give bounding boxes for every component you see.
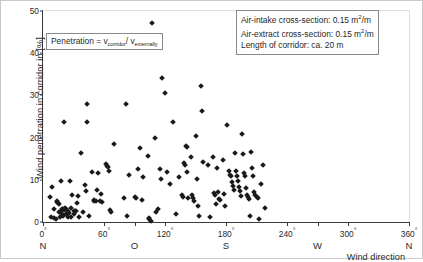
y-tick-label: 30 bbox=[30, 90, 43, 100]
data-point bbox=[249, 149, 255, 155]
data-point bbox=[247, 196, 253, 202]
x-tick-mark bbox=[409, 222, 410, 226]
data-point bbox=[210, 154, 216, 160]
data-point bbox=[95, 170, 101, 176]
data-point bbox=[99, 199, 105, 205]
data-point bbox=[258, 182, 264, 188]
x-axis-label: Wind direction bbox=[347, 252, 405, 262]
data-point bbox=[185, 169, 191, 175]
x-tick-label: 360° bbox=[401, 227, 417, 239]
data-point bbox=[205, 162, 211, 168]
data-point bbox=[159, 75, 165, 81]
data-point bbox=[158, 176, 164, 182]
data-point bbox=[170, 119, 176, 125]
data-point bbox=[184, 144, 190, 150]
data-point bbox=[167, 182, 173, 188]
data-point bbox=[84, 119, 90, 125]
data-point bbox=[121, 196, 127, 202]
info-corridor-length-value: ca. 20 m bbox=[311, 40, 343, 50]
data-point bbox=[74, 200, 80, 206]
data-point bbox=[49, 185, 55, 191]
data-point bbox=[98, 191, 104, 197]
data-point bbox=[135, 166, 141, 172]
data-point bbox=[125, 213, 131, 219]
data-point bbox=[137, 145, 143, 151]
data-point bbox=[108, 209, 114, 215]
data-point bbox=[221, 191, 227, 197]
data-point bbox=[111, 141, 117, 147]
data-point bbox=[86, 213, 92, 219]
x-tick-mark bbox=[135, 222, 136, 226]
info-row-air-intake: Air-intake cross-section: 0.15 m2/m bbox=[241, 13, 374, 27]
data-point bbox=[78, 150, 84, 156]
data-point bbox=[189, 155, 195, 161]
data-point bbox=[82, 182, 88, 188]
data-point bbox=[83, 188, 89, 194]
data-point bbox=[214, 165, 220, 171]
data-point bbox=[193, 133, 199, 139]
data-point bbox=[250, 165, 256, 171]
y-tick-label: 0 bbox=[34, 217, 43, 227]
x-tick-label: 60° bbox=[98, 227, 110, 239]
data-point bbox=[260, 163, 266, 169]
info-air-intake-value: 0.15 m2/m bbox=[333, 15, 371, 25]
info-air-intake-label: Air-intake cross-section: bbox=[241, 15, 330, 25]
data-point bbox=[195, 204, 201, 210]
formula-divider: / v bbox=[126, 36, 135, 46]
data-point bbox=[58, 178, 64, 184]
info-air-extract-number: 0.15 m bbox=[335, 29, 361, 39]
info-air-extract-value: 0.15 m2/m bbox=[335, 29, 373, 39]
data-point bbox=[157, 166, 163, 172]
info-air-intake-number: 0.15 m bbox=[333, 15, 359, 25]
data-point bbox=[240, 151, 246, 157]
x-tick-mark bbox=[287, 222, 288, 226]
data-point bbox=[207, 215, 213, 221]
data-point bbox=[224, 122, 230, 128]
y-tick-label: 50 bbox=[30, 6, 43, 16]
x-tick-mark bbox=[226, 222, 227, 226]
data-point bbox=[198, 83, 204, 89]
parameters-info-box: Air-intake cross-section: 0.15 m2/m Air-… bbox=[236, 10, 379, 55]
data-point bbox=[199, 108, 205, 114]
compass-direction-label: W bbox=[313, 240, 322, 251]
data-point bbox=[239, 131, 245, 137]
data-point bbox=[232, 150, 238, 156]
x-tick-mark bbox=[43, 222, 44, 226]
data-point bbox=[194, 176, 200, 182]
x-tick-label: 0° bbox=[39, 227, 46, 239]
data-point bbox=[145, 153, 151, 159]
data-point bbox=[228, 173, 234, 179]
data-point bbox=[76, 214, 82, 220]
data-point bbox=[84, 101, 90, 107]
formula-sub-corridor: corridor bbox=[108, 41, 126, 47]
info-air-extract-unit: /m bbox=[364, 29, 373, 39]
compass-direction-label: N bbox=[40, 240, 47, 251]
data-point bbox=[127, 172, 133, 178]
x-tick-label: 120° bbox=[157, 227, 173, 239]
data-point bbox=[217, 197, 223, 203]
x-tick-mark bbox=[318, 222, 319, 226]
data-point bbox=[124, 101, 130, 107]
data-point bbox=[220, 158, 226, 164]
info-air-intake-unit: /m bbox=[362, 15, 371, 25]
info-corridor-length-label: Length of corridor: bbox=[241, 40, 309, 50]
data-point bbox=[152, 135, 158, 141]
data-point bbox=[173, 212, 179, 218]
data-point bbox=[162, 90, 168, 96]
data-point bbox=[62, 119, 68, 125]
data-point bbox=[47, 194, 53, 200]
penetration-formula-box: Penetration = vcorridor/ vexternally bbox=[46, 33, 163, 50]
x-tick-label: 240° bbox=[279, 227, 295, 239]
compass-direction-label: O bbox=[131, 240, 138, 251]
formula-sub-externally: externally bbox=[135, 41, 158, 47]
data-point bbox=[67, 178, 73, 184]
data-point bbox=[75, 193, 81, 199]
data-point bbox=[149, 20, 155, 26]
data-point bbox=[140, 174, 146, 180]
x-tick-mark bbox=[104, 222, 105, 226]
formula-prefix: Penetration = v bbox=[51, 36, 108, 46]
compass-direction-label: S bbox=[223, 240, 229, 251]
data-point bbox=[89, 169, 95, 175]
data-point bbox=[164, 169, 170, 175]
